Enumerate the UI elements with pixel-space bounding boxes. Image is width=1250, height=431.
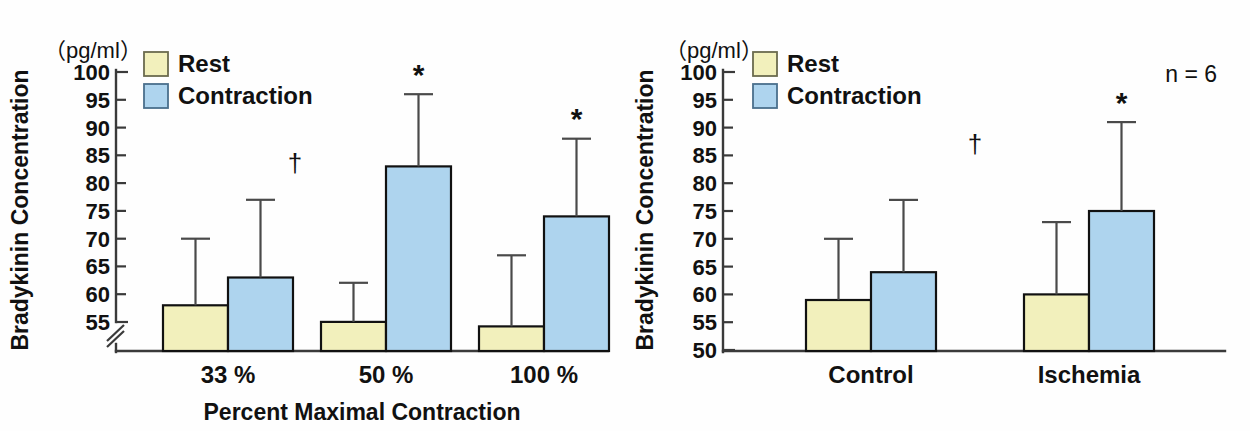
y-axis-tick-labels: 100 95 90 85 80 75 70 65 60 55 <box>73 60 110 335</box>
legend-label-contraction: Contraction <box>178 82 313 109</box>
chart-panel-left: Bradykinin Concentration （pg/ml） <box>0 0 625 431</box>
bar-rest-50 <box>321 322 386 351</box>
category-label-33: 33 % <box>201 361 256 388</box>
legend-swatch-rest <box>144 52 168 76</box>
bar-group-33: 33 % <box>163 200 293 388</box>
bar-contraction-50 <box>386 166 451 351</box>
bar-contraction-100 <box>544 216 609 351</box>
y-tick-label-100: 100 <box>73 60 110 85</box>
legend-label-contraction: Contraction <box>787 82 922 109</box>
y-tick-label-90: 90 <box>86 116 110 141</box>
bar-rest-33 <box>163 305 228 351</box>
bar-contraction-33 <box>228 278 293 352</box>
y-tick-label-65: 65 <box>693 255 717 280</box>
y-tick-label-75: 75 <box>86 199 110 224</box>
y-axis-title: Bradykinin Concentration <box>7 69 33 350</box>
category-label-50: 50 % <box>359 361 414 388</box>
y-tick-label-95: 95 <box>86 88 110 113</box>
category-label-control: Control <box>828 361 913 388</box>
y-axis-ticks <box>116 72 128 322</box>
significance-star-ischemia: * <box>1116 86 1128 119</box>
legend-label-rest: Rest <box>178 50 230 77</box>
legend: Rest Contraction <box>144 50 313 109</box>
x-axis-title: Percent Maximal Contraction <box>204 399 521 425</box>
legend-swatch-rest <box>753 52 777 76</box>
y-tick-label-65: 65 <box>86 254 110 279</box>
bar-group-ischemia: * Ischemia <box>1024 86 1154 388</box>
y-tick-label-75: 75 <box>693 199 717 224</box>
y-tick-label-85: 85 <box>86 143 110 168</box>
legend-label-rest: Rest <box>787 50 839 77</box>
category-label-100: 100 % <box>510 361 578 388</box>
y-tick-label-55: 55 <box>693 310 717 335</box>
category-label-ischemia: Ischemia <box>1038 361 1141 388</box>
y-axis-ticks <box>723 72 735 350</box>
legend-swatch-contraction <box>753 84 777 108</box>
y-tick-label-95: 95 <box>693 88 717 113</box>
y-tick-label-50: 50 <box>693 338 717 363</box>
legend-swatch-contraction <box>144 84 168 108</box>
figure-container: Bradykinin Concentration （pg/ml） <box>0 0 1250 431</box>
y-tick-label-70: 70 <box>693 227 717 252</box>
y-tick-label-60: 60 <box>86 282 110 307</box>
sample-size-annotation: n = 6 <box>1165 61 1217 87</box>
right-chart-svg: Bradykinin Concentration （pg/ml） <box>625 0 1250 431</box>
y-tick-label-80: 80 <box>693 171 717 196</box>
y-tick-label-80: 80 <box>86 171 110 196</box>
y-axis-tick-labels: 100 95 90 85 80 75 70 65 60 55 50 <box>680 60 717 363</box>
bar-contraction-ischemia <box>1089 211 1154 351</box>
bar-group-50: * 50 % <box>321 58 451 388</box>
y-tick-label-90: 90 <box>693 116 717 141</box>
y-tick-label-55: 55 <box>86 310 110 335</box>
y-tick-label-60: 60 <box>693 282 717 307</box>
bar-group-control: Control <box>806 200 936 388</box>
significance-star-100: * <box>571 102 583 135</box>
bar-group-100: * 100 % <box>479 102 609 388</box>
significance-star-50: * <box>413 58 425 91</box>
left-chart-svg: Bradykinin Concentration （pg/ml） <box>0 0 625 431</box>
y-tick-label-85: 85 <box>693 143 717 168</box>
bar-rest-100 <box>479 326 544 351</box>
y-tick-label-70: 70 <box>86 227 110 252</box>
bar-rest-ischemia <box>1024 294 1089 351</box>
chart-panel-right: Bradykinin Concentration （pg/ml） <box>625 0 1250 431</box>
significance-dagger-right: † <box>968 129 982 159</box>
y-tick-label-100: 100 <box>680 60 717 85</box>
bar-contraction-control <box>871 272 936 351</box>
significance-dagger-left: † <box>288 148 302 178</box>
y-axis-title: Bradykinin Concentration <box>632 69 658 350</box>
bar-rest-control <box>806 300 871 351</box>
legend: Rest Contraction <box>753 50 922 109</box>
